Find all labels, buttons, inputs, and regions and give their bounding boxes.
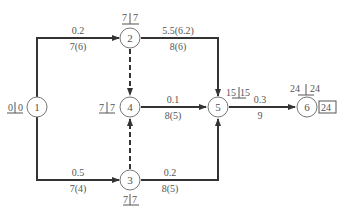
node-6-total: 24 xyxy=(321,102,331,113)
edge-1-3-top: 0.5 xyxy=(72,167,85,178)
node-3-time-right: 7 xyxy=(132,194,137,205)
node-6: 6 24 24 24 xyxy=(290,83,336,117)
node-4-time-right: 7 xyxy=(110,102,115,113)
node-4-time-left: 7 xyxy=(99,102,104,113)
node-2-time-right: 7 xyxy=(133,12,138,23)
node-3-time-left: 7 xyxy=(123,194,128,205)
node-5-time-right: 15 xyxy=(240,87,250,98)
edge-2-5-bottom: 8(6) xyxy=(170,41,187,53)
node-6-time-left: 24 xyxy=(290,83,300,94)
edge-3-5-top: 0.2 xyxy=(164,167,177,178)
edge-1-3-bottom: 7(4) xyxy=(70,183,87,195)
node-1: 1 0 0 xyxy=(7,97,47,117)
edge-5-6-top: 0.3 xyxy=(254,94,267,105)
network-diagram: 0.2 7(6) 0.5 7(4) 5.5(6.2) 8(6) 0.1 8(5)… xyxy=(0,0,343,212)
node-2: 2 7 7 xyxy=(120,12,140,48)
edge-4-5-top: 0.1 xyxy=(167,94,180,105)
edge-1-2-bottom: 7(6) xyxy=(70,41,87,53)
edge-3-5-bottom: 8(5) xyxy=(162,183,179,195)
edge-3-5 xyxy=(141,119,218,180)
node-3: 3 7 7 xyxy=(120,170,140,205)
node-1-time-right: 0 xyxy=(18,102,23,113)
node-4: 4 7 7 xyxy=(99,97,140,117)
node-1-time-left: 0 xyxy=(8,102,13,113)
node-6-time-right: 24 xyxy=(310,83,320,94)
node-6-label: 6 xyxy=(304,101,310,113)
node-3-label: 3 xyxy=(127,174,133,186)
edge-5-6-bottom: 9 xyxy=(258,110,263,121)
node-2-time-left: 7 xyxy=(122,12,127,23)
node-5-time-left: 15 xyxy=(226,87,236,98)
edge-1-2-top: 0.2 xyxy=(72,25,85,36)
edge-2-5-top: 5.5(6.2) xyxy=(162,25,194,37)
node-2-label: 2 xyxy=(127,32,133,44)
node-5: 5 15 15 xyxy=(208,87,250,117)
edge-4-5-bottom: 8(5) xyxy=(165,110,182,122)
node-5-label: 5 xyxy=(215,101,221,113)
node-4-label: 4 xyxy=(127,101,133,113)
node-1-label: 1 xyxy=(34,101,40,113)
